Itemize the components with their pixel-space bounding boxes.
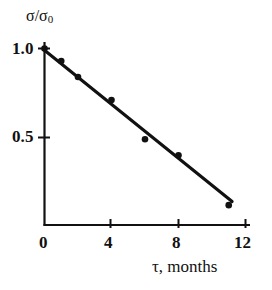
data-point [58, 58, 65, 65]
data-point [75, 74, 82, 81]
x-tick-label-0: 0 [39, 234, 48, 251]
data-point [175, 152, 182, 159]
y-axis-title-text: σ/σ [26, 7, 48, 24]
data-point [108, 97, 115, 104]
data-point [142, 136, 149, 143]
fit-line [45, 50, 233, 201]
y-tick-label-1: 1.0 [12, 40, 34, 57]
y-axis-title: σ/σ0 [26, 8, 53, 25]
chart-figure: σ/σ0 1.0 0.5 0 4 8 12 τ, months [0, 0, 272, 290]
x-axis-title: τ, months [152, 258, 217, 275]
y-axis-title-subscript: 0 [48, 13, 54, 25]
y-tick-label-0: 0.5 [12, 128, 34, 145]
x-tick-label-12: 12 [234, 234, 251, 251]
data-point [225, 202, 232, 209]
x-axis-ticks [111, 219, 246, 228]
data-point [41, 45, 48, 52]
x-tick-label-8: 8 [172, 234, 181, 251]
x-tick-label-4: 4 [104, 234, 113, 251]
